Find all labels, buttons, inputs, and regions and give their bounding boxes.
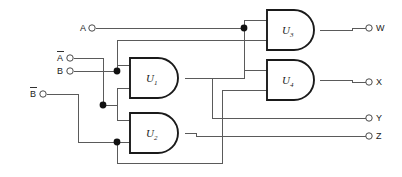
gate-u2-subscript: 2 [154, 134, 158, 142]
wire-b-to-u1 [74, 65, 130, 71]
output-label-z: Z [376, 131, 382, 141]
and-gate-shape-u1 [130, 58, 178, 98]
input-label-a: A [80, 23, 86, 33]
gate-u3[interactable]: U 3 [267, 10, 314, 50]
input-terminal-b[interactable] [67, 68, 73, 74]
input-label-b-bar: B [30, 89, 36, 99]
circuit-diagram-canvas: right to junction (244,28) --> into U3 u… [0, 0, 402, 177]
output-label-w: W [376, 23, 385, 33]
junction-bbar-split [114, 139, 121, 146]
input-terminal-b-bar[interactable] [40, 91, 46, 97]
output-label-y: Y [376, 113, 382, 123]
wire-u3-to-w [320, 28, 366, 30]
and-gate-shape-u4 [267, 60, 314, 100]
gate-u1[interactable]: U 1 [130, 58, 178, 98]
wire-abar-to-u1 [103, 88, 130, 105]
input-terminal-a[interactable] [89, 25, 95, 31]
wire-u1-to-u4 [212, 70, 267, 78]
gate-u3-subscript: 3 [289, 31, 294, 39]
wire-u2-out [185, 133, 366, 136]
junction-b-split [114, 68, 121, 75]
gate-u4[interactable]: U 4 [267, 60, 314, 100]
output-terminal-w[interactable] [366, 25, 372, 31]
input-terminal-a-bar[interactable] [67, 55, 73, 61]
and-gate-shape-u2 [130, 113, 178, 153]
output-terminal-y[interactable] [366, 115, 372, 121]
junction-a-split [241, 25, 248, 32]
wire-group: right to junction (244,28) --> into U3 u… [47, 20, 366, 163]
circuit-schematic: right to junction (244,28) --> into U3 u… [0, 0, 402, 177]
input-terminals[interactable]: A A B B [30, 23, 96, 99]
wire-u4-to-x [320, 80, 366, 82]
junction-abar-split [100, 102, 107, 109]
gate-u2[interactable]: U 2 [130, 113, 178, 153]
output-terminals[interactable]: W X Y Z [366, 23, 385, 141]
gate-u4-subscript: 4 [290, 81, 294, 89]
wire-bbar-down [47, 94, 117, 142]
gate-u1-subscript: 1 [154, 79, 158, 87]
output-terminal-x[interactable] [366, 79, 372, 85]
input-label-b: B [57, 66, 63, 76]
and-gate-shape-u3 [267, 10, 314, 50]
output-terminal-z[interactable] [366, 133, 372, 139]
output-label-x: X [376, 77, 382, 87]
input-label-a-bar: A [57, 53, 63, 63]
wire-abar-to-u2 [103, 105, 130, 120]
